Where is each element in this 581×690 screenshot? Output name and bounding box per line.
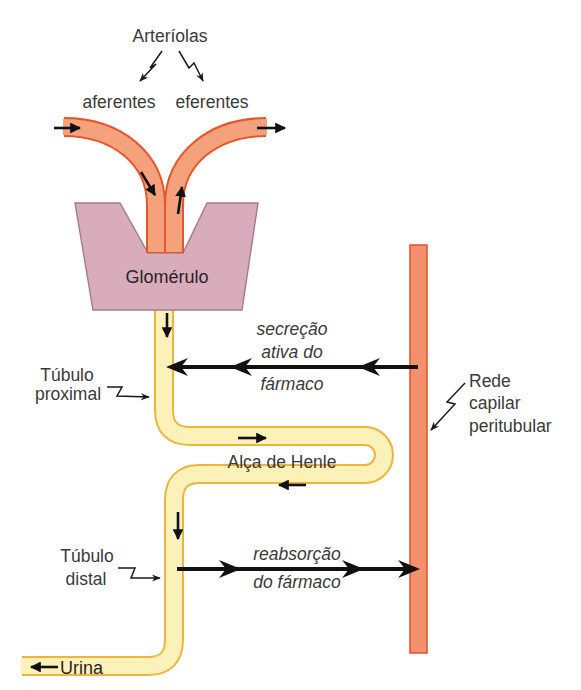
capillary-label-line1: Rede bbox=[469, 371, 511, 391]
capillary-label-line2: capilar bbox=[469, 393, 521, 413]
peritubular-capillary bbox=[410, 245, 427, 653]
secretion-label-line2: ativa do bbox=[261, 342, 323, 362]
urine-label: Urina bbox=[60, 658, 104, 678]
arterioles-title: Arteríolas bbox=[133, 26, 208, 46]
zigzag-arrow-icon-distal bbox=[118, 568, 160, 578]
zigzag-arrow-icon-capillary bbox=[431, 383, 465, 430]
capillary-label-line3: peritubular bbox=[469, 416, 552, 436]
distal-tubule-label-line1: Túbulo bbox=[60, 546, 114, 566]
tubule-outline bbox=[22, 308, 384, 666]
nephron-tubule bbox=[21, 308, 384, 666]
secretion-label-line1: secreção bbox=[256, 319, 327, 339]
loop-of-henle-label: Alça de Henle bbox=[228, 452, 337, 472]
reabsorption-label-line2: do fármaco bbox=[253, 572, 341, 592]
zigzag-arrow-icon-proximal bbox=[107, 387, 149, 397]
proximal-tubule-label-line2: proximal bbox=[35, 384, 101, 404]
zigzag-arrow-icon-efferent bbox=[179, 51, 203, 81]
reabsorption-label-line1: reabsorção bbox=[253, 544, 341, 564]
efferent-label: eferentes bbox=[176, 92, 249, 112]
distal-tubule-label-line2: distal bbox=[66, 569, 107, 589]
proximal-tubule-label-line1: Túbulo bbox=[40, 365, 94, 385]
glomerulus-label: Glomérulo bbox=[125, 267, 208, 287]
secretion-label-line3: fármaco bbox=[260, 374, 323, 394]
afferent-label: aferentes bbox=[83, 92, 156, 112]
zigzag-arrow-icon-afferent bbox=[140, 51, 162, 81]
tubule-lumen bbox=[21, 308, 384, 666]
nephron-diagram: Arteríolas aferentes eferentes Glomérulo… bbox=[0, 0, 581, 690]
